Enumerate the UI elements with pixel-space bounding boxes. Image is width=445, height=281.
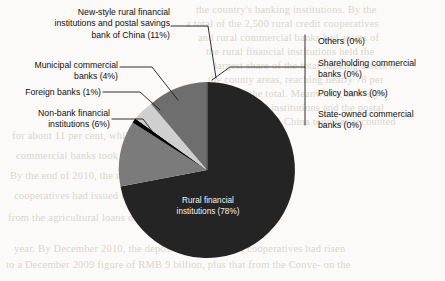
callout-label-non-bank-financial-institutions: Non-bank financial institutions (6%) <box>18 108 110 131</box>
callout-label-others: Others (0%) <box>318 36 438 47</box>
callout-label-state-owned-commercial-banks: State-owned commercial banks (0%) <box>318 109 442 132</box>
leader-line-right-elbow <box>212 67 305 80</box>
leader-line-new-style-rural <box>171 26 216 78</box>
callout-label-new-style-rural: New-style rural financial institutions a… <box>18 7 170 41</box>
callout-label-policy-banks: Policy banks (0%) <box>318 88 438 99</box>
callout-label-shareholding-commercial-banks: Shareholding commercial banks (0%) <box>318 58 440 81</box>
pie-chart-figure: the country's banking institutions. By t… <box>0 0 445 281</box>
callout-label-foreign-banks: Foreign banks (1%) <box>18 87 101 98</box>
callout-label-municipal-commercial-banks: Municipal commercial banks (4%) <box>18 60 118 83</box>
slice-label-rural-financial-institutions: Rural financial institutions (78%) <box>152 196 264 217</box>
